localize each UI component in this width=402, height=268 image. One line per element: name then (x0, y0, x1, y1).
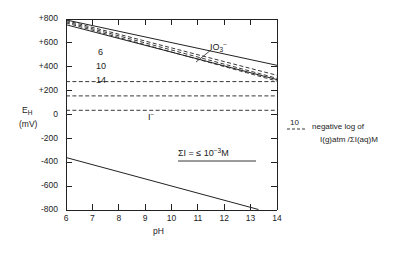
y-tick-label-600n: -600 (22, 181, 58, 190)
y-tick-label-600p: +600 (22, 38, 58, 47)
y-axis-units: (mV) (19, 120, 37, 129)
figure-container: +800 +600 +400 +200 0 -200 -400 -600 -80… (0, 0, 402, 268)
total-iodine-annotation: ΣI = ≤ 10−3M (178, 148, 229, 158)
x-tick-label-7: 7 (82, 214, 102, 223)
x-axis-ticks (66, 204, 277, 210)
y-axis-title-subscript: H (28, 109, 33, 116)
curve-iodate-iodide-solid (66, 20, 277, 65)
x-tick-label-6: 6 (56, 214, 76, 223)
y-tick-label-200n: -200 (22, 134, 58, 143)
total-iodine-annotation-text: ΣI = ≤ 10 (178, 148, 214, 158)
legend-description-line-2: I(g)atm /ΣI(aq)M (320, 136, 378, 144)
top-spine-ticks (92, 19, 250, 25)
chart-canvas (0, 0, 402, 268)
legend-description-gas-term: I(g)atm / (320, 135, 350, 144)
iodate-species-label-text: IO (210, 42, 220, 52)
horizontal-line-label-10: 10 (96, 62, 106, 71)
x-tick-label-8: 8 (109, 214, 129, 223)
horizontal-line-label-14: 14 (96, 76, 106, 85)
y-tick-label-400n: -400 (22, 157, 58, 166)
x-axis-title: pH (153, 227, 164, 236)
x-tick-label-14: 14 (267, 214, 287, 223)
total-iodine-annotation-unit: M (221, 148, 229, 158)
iodate-species-label-charge: − (223, 41, 227, 48)
y-tick-label-200p: +200 (22, 86, 58, 95)
x-tick-label-10: 10 (162, 214, 182, 223)
iodide-species-label-charge: − (151, 111, 155, 118)
legend-description-line-1: negative log of (312, 123, 364, 131)
y-tick-label-800p: +800 (22, 14, 58, 23)
y-tick-label-400p: +400 (22, 62, 58, 71)
x-tick-label-9: 9 (135, 214, 155, 223)
legend-key-label: 10 (290, 119, 299, 127)
curve-water-lower-stability-limit (66, 158, 259, 210)
y-axis-title: EH (22, 106, 32, 116)
x-tick-label-13: 13 (241, 214, 261, 223)
legend-description-aq-term: ΣI(aq)M (350, 135, 378, 144)
x-tick-label-12: 12 (214, 214, 234, 223)
x-tick-label-11: 11 (188, 214, 208, 223)
y-axis-ticks (66, 19, 72, 210)
iodate-species-label: IO3− (210, 42, 227, 53)
iodide-species-label: I− (148, 112, 154, 122)
y-tick-label-800n: -800 (22, 205, 58, 214)
horizontal-line-label-6: 6 (98, 48, 103, 57)
